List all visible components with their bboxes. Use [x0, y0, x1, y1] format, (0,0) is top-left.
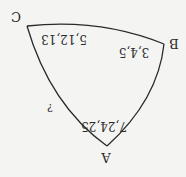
angle-label-B: 3,4,5: [119, 45, 150, 59]
angle-label-C: 5,12,13: [41, 32, 87, 46]
spherical-triangle-diagram: C B A 5,12,13 3,4,5 7,24,25 ?: [0, 0, 186, 177]
vertex-label-B: B: [169, 36, 179, 51]
vertex-label-C: C: [11, 9, 21, 24]
vertex-label-A: A: [101, 150, 112, 165]
diagram-canvas: C B A 5,12,13 3,4,5 7,24,25 ?: [0, 0, 186, 177]
angle-label-A: 7,24,25: [81, 119, 127, 133]
side-label-AC: ?: [47, 101, 53, 114]
